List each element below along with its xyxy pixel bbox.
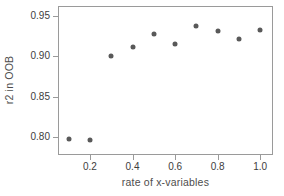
y-tick-mark [53,56,58,57]
data-point [194,23,199,28]
x-tick-mark [218,155,219,160]
y-axis-label: r2 in OOB [0,0,18,160]
y-tick-label: 0.80 [31,132,50,142]
x-tick-label: 1.0 [248,162,272,172]
scatter-plot-figure: r2 in OOB 0.800.850.900.95 0.20.40.60.81… [0,0,284,196]
x-tick-label: 0.6 [163,162,187,172]
data-point [87,138,92,143]
y-tick-mark [53,137,58,138]
y-tick-mark [53,16,58,17]
x-tick-mark [175,155,176,160]
data-point [109,53,114,58]
x-tick-label: 0.8 [206,162,230,172]
x-axis-label: rate of x-variables [58,176,273,188]
y-tick-mark [53,97,58,98]
y-tick-label: 0.85 [31,92,50,102]
data-point [215,28,220,33]
x-tick-mark [260,155,261,160]
data-point [66,137,71,142]
data-point [173,41,178,46]
x-tick-mark [90,155,91,160]
y-axis-label-text: r2 in OOB [3,56,15,104]
y-tick-label: 0.95 [31,11,50,21]
x-tick-label: 0.4 [121,162,145,172]
plot-area [58,6,273,155]
data-point [258,27,263,32]
x-tick-label: 0.2 [78,162,102,172]
x-tick-mark [133,155,134,160]
data-point [151,31,156,36]
y-tick-label: 0.90 [31,51,50,61]
data-point [236,36,241,41]
data-point [130,44,135,49]
